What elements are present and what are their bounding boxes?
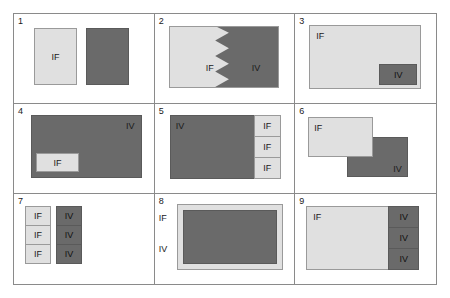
panel-5: 5 IV IF IF IF: [155, 104, 296, 194]
panel-9: 9 IF IV IV IV: [295, 194, 436, 284]
light-stack-item: IF: [25, 206, 51, 226]
dark-stack-item: IV: [56, 244, 82, 264]
panel-7: 7 IF IF IF IV IV IV: [14, 194, 155, 284]
panel-8: 8 IF IV: [155, 194, 296, 284]
light-rect: IF: [34, 28, 77, 85]
panel-number: 9: [299, 196, 304, 206]
label-iv: IV: [159, 244, 168, 254]
figure-panel-grid: 1 IF 2 IF IV 3 IF IV 4: [13, 13, 437, 285]
light-stack-item: IF: [25, 244, 51, 264]
dark-rect: [86, 28, 129, 85]
light-strip: IF: [254, 136, 281, 158]
dark-strip: IV: [388, 248, 419, 270]
panel-1: 1 IF: [14, 14, 155, 104]
panel-number: 6: [299, 106, 304, 116]
dark-strip: IV: [388, 227, 419, 249]
zigzag-box: IF IV: [169, 26, 279, 88]
label-if: IF: [159, 213, 167, 223]
panel-2: 2 IF IV: [155, 14, 296, 104]
label-if: IF: [313, 212, 321, 222]
dark-inset-rect: IV: [379, 64, 417, 85]
label-iv: IV: [393, 164, 402, 174]
panel-number: 4: [18, 106, 23, 116]
panel-4: 4 IV IF: [14, 104, 155, 194]
panel-number: 2: [159, 16, 164, 26]
label-iv: IV: [126, 121, 135, 131]
light-strip: IF: [254, 157, 281, 179]
light-inset-rect: IF: [36, 153, 79, 172]
light-frame: [177, 204, 283, 270]
label-iv: IV: [252, 63, 261, 73]
panel-6: 6 IV IF: [295, 104, 436, 194]
panel-3: 3 IF IV: [295, 14, 436, 104]
label-if: IF: [316, 31, 324, 41]
dark-core: [183, 210, 277, 264]
panel-number: 3: [299, 16, 304, 26]
dark-stack-item: IV: [56, 206, 82, 226]
zigzag-divider-icon: [170, 27, 278, 87]
label-if: IF: [314, 123, 322, 133]
panel-number: 8: [159, 196, 164, 206]
panel-number: 5: [159, 106, 164, 116]
panel-grid: 1 IF 2 IF IV 3 IF IV 4: [14, 14, 436, 284]
dark-strip: IV: [388, 206, 419, 228]
label-iv: IV: [176, 121, 185, 131]
label-if: IF: [206, 63, 214, 73]
light-strip: IF: [254, 115, 281, 137]
panel-number: 7: [18, 196, 23, 206]
dark-stack-item: IV: [56, 225, 82, 245]
light-stack-item: IF: [25, 225, 51, 245]
panel-number: 1: [18, 16, 23, 26]
